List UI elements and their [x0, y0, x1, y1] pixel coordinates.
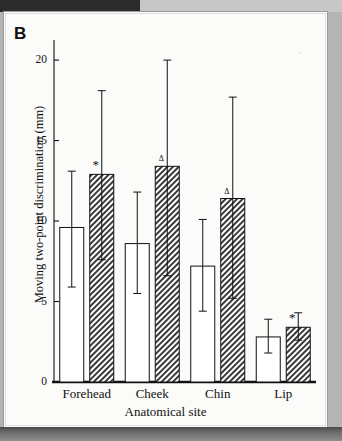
- bar-chart: Moving two-point discrimination (mm) Ana…: [4, 12, 327, 427]
- scan-background: B Moving two-point discrimination (mm) A…: [0, 0, 342, 441]
- significance-marker-forehead: *: [93, 157, 100, 172]
- scanner-shadow-band: [0, 427, 342, 441]
- significance-marker-lip: *: [289, 310, 296, 325]
- significance-marker-chin: Δ: [224, 187, 229, 196]
- significance-marker-cheek: Δ: [159, 154, 164, 163]
- scan-speck: [299, 52, 302, 54]
- plot-svg: *ΔΔ*: [4, 12, 327, 427]
- scanner-dark-band: [0, 0, 140, 12]
- printed-page: B Moving two-point discrimination (mm) A…: [4, 12, 327, 427]
- scanner-light-band: [140, 0, 342, 12]
